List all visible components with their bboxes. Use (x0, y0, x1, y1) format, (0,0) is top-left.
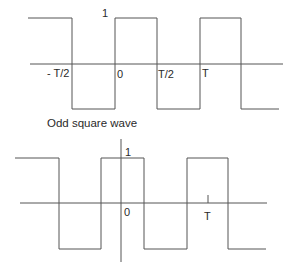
diagram-canvas: 1 - T/2 0 T/2 T Odd square wave 1 0 T (0, 0, 295, 271)
top-zero-label: 0 (117, 68, 123, 80)
bottom-period-label: T (204, 210, 211, 222)
odd-square-wave-caption: Odd square wave (47, 117, 137, 129)
top-period-label: T (202, 67, 209, 79)
odd-square-wave-diagram: 1 - T/2 0 T/2 T Odd square wave (28, 7, 283, 129)
top-neg-half-period-label: - T/2 (47, 67, 69, 79)
top-half-period-label: T/2 (158, 68, 174, 80)
bottom-zero-label: 0 (124, 206, 130, 218)
bottom-amplitude-label: 1 (125, 146, 131, 158)
even-square-wave-diagram: 1 0 T (15, 139, 267, 262)
top-amplitude-label: 1 (102, 7, 108, 19)
